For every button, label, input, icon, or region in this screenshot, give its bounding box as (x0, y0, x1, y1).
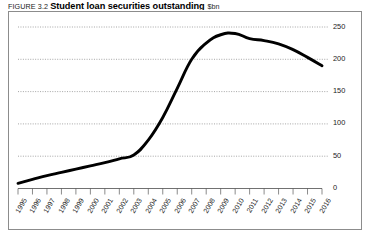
y-tick-label: 100 (333, 119, 345, 127)
figure-container: FIGURE 3.2Student loan securities outsta… (0, 0, 370, 236)
y-tick-label: 250 (333, 23, 345, 31)
y-tick-label: 200 (333, 55, 345, 63)
y-tick-label: 0 (333, 184, 337, 192)
y-tick-label: 50 (333, 152, 341, 160)
y-tick-label: 150 (333, 87, 345, 95)
plot-frame (8, 11, 362, 230)
page-title: Student loan securities outstanding (50, 1, 204, 10)
figure-caption: FIGURE 3.2Student loan securities outsta… (8, 0, 364, 10)
figure-number-label: FIGURE 3.2 (8, 2, 48, 10)
units-label: $bn (208, 2, 220, 10)
